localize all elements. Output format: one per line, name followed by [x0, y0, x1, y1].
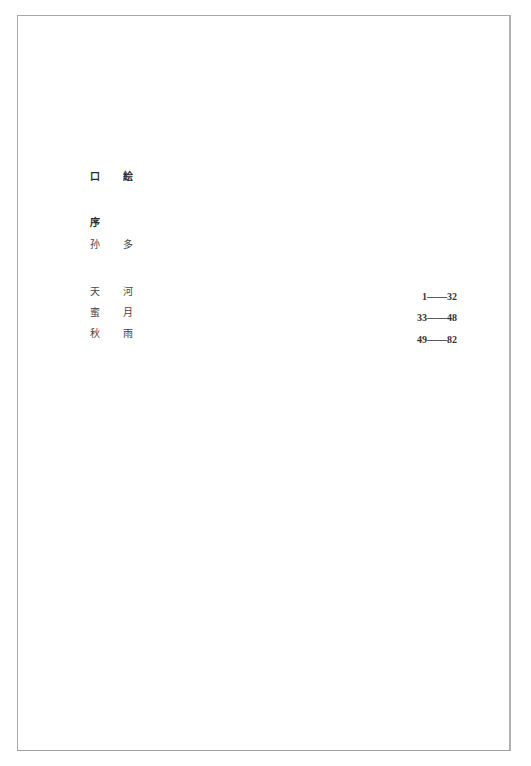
toc-entry-pages: 49——82	[417, 334, 457, 346]
toc-entry-title: 蜜 月	[90, 307, 143, 319]
toc-preface: 序	[90, 217, 110, 229]
toc-entry-pages: 1——32	[422, 291, 457, 303]
toc-entry-title: 秋 雨	[90, 328, 143, 340]
toc-entry-title: 天 河	[90, 286, 143, 298]
page-border	[17, 15, 511, 751]
toc-entry-pages: 33——48	[417, 312, 457, 324]
toc-preface-author: 孙 多	[90, 239, 143, 251]
toc-frontispiece: 口 絵	[90, 171, 143, 183]
